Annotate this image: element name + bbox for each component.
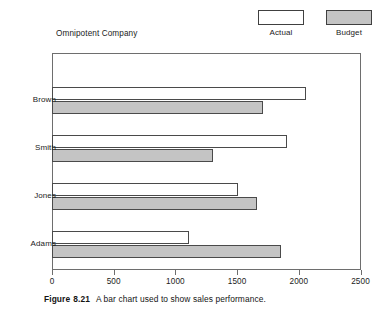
- legend-entry-actual: Actual: [258, 10, 304, 37]
- legend-swatch-actual-icon: [258, 10, 304, 25]
- bar-brown-budget: [52, 101, 263, 114]
- x-axis-tick-label-2000: 2000: [289, 277, 308, 286]
- y-axis-label-adams: Adams: [31, 239, 56, 248]
- bar-jones-budget: [52, 197, 257, 210]
- x-axis-tick-label-1500: 1500: [228, 277, 247, 286]
- chart-legend: Actual Budget: [258, 10, 372, 37]
- x-axis-tick-label-2500: 2500: [351, 277, 370, 286]
- caption-figure-number: 8.21: [73, 294, 90, 304]
- figure-caption: Figure8.21A bar chart used to show sales…: [44, 294, 266, 304]
- x-axis-tick-0: [52, 270, 53, 275]
- bar-adams-actual: [52, 231, 189, 244]
- x-axis-tick-500: [114, 270, 115, 275]
- y-axis-label-jones: Jones: [34, 191, 56, 200]
- bar-smith-budget: [52, 149, 213, 162]
- bar-jones-actual: [52, 183, 238, 196]
- x-axis-tick-label-0: 0: [50, 277, 55, 286]
- x-axis-tick-1000: [175, 270, 176, 275]
- x-axis-tick-2500: [361, 270, 362, 275]
- bar-adams-budget: [52, 245, 281, 258]
- y-axis-label-smith: Smith: [35, 143, 56, 152]
- bar-smith-actual: [52, 135, 287, 148]
- chart-title-line-1: Omnipotent Company: [56, 28, 174, 39]
- bar-brown-actual: [52, 87, 306, 100]
- x-axis-tick-label-500: 500: [107, 277, 121, 286]
- caption-text: A bar chart used to show sales performan…: [96, 294, 266, 304]
- y-axis-label-brown: Brown: [33, 95, 56, 104]
- bars-container: [53, 54, 360, 269]
- caption-figure-label: Figure: [44, 294, 70, 304]
- plot-area: [52, 53, 361, 270]
- legend-entry-budget: Budget: [326, 10, 372, 37]
- legend-swatch-budget-icon: [326, 10, 372, 25]
- x-axis-tick-1500: [237, 270, 238, 275]
- legend-label-actual: Actual: [270, 28, 293, 37]
- legend-label-budget: Budget: [336, 28, 362, 37]
- x-axis-tick-label-1000: 1000: [166, 277, 185, 286]
- x-axis-tick-2000: [299, 270, 300, 275]
